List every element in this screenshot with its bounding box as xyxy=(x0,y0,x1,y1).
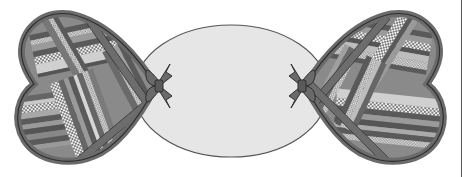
left-heart-patchwork xyxy=(3,0,170,177)
candy-quilt-illustration: Candy-shaped quilt with two heart-shaped… xyxy=(0,0,463,177)
illustration-canvas xyxy=(0,0,463,177)
right-heart-patchwork xyxy=(296,5,457,177)
right-edge-divider xyxy=(461,0,462,177)
